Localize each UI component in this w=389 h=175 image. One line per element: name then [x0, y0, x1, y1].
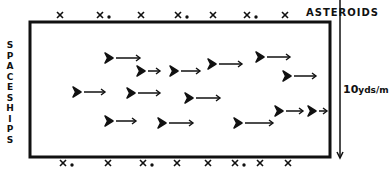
spaceship-icon [185, 93, 220, 103]
spaceships-group [73, 52, 327, 128]
spaceships-letter: S [5, 135, 15, 146]
spaceships-letter: C [5, 72, 15, 83]
asteroid-icon [205, 160, 211, 166]
spaceships-letter: I [5, 114, 15, 125]
asteroid-icon [285, 160, 291, 166]
spaceships-letter: A [5, 61, 15, 72]
spaceship-icon [256, 52, 290, 62]
asteroids-label: ASTEROIDS [306, 7, 379, 18]
spaceships-letter: H [5, 103, 15, 114]
scale-unit: yds/m [358, 85, 388, 95]
asteroid-icon [232, 160, 246, 167]
spaceship-icon [275, 106, 303, 116]
spaceship-icon [105, 53, 140, 63]
spaceships-letter: S [5, 40, 15, 51]
spaceships-label: S P A C E S H I P S [5, 40, 15, 145]
asteroid-icon [257, 160, 263, 166]
spaceship-icon [234, 118, 273, 128]
spaceships-letter: E [5, 82, 15, 93]
scale-label: 10yds/m [343, 83, 389, 96]
asteroid-icon [60, 160, 74, 167]
asteroid-icon [282, 12, 288, 18]
spaceship-icon [283, 71, 316, 81]
asteroid-icon [97, 12, 111, 19]
asteroid-icon [174, 160, 180, 166]
spaceships-letter: P [5, 124, 15, 135]
spaceships-letter: S [5, 93, 15, 104]
asteroids-bottom-row [60, 160, 291, 167]
spaceship-icon [308, 106, 327, 116]
scale-number: 10 [343, 83, 358, 96]
asteroid-icon [138, 12, 144, 18]
asteroid-icon [57, 12, 63, 18]
asteroid-icon [244, 12, 258, 19]
asteroid-icon [105, 160, 111, 166]
spaceship-icon [170, 66, 200, 76]
asteroid-icon [210, 12, 216, 18]
asteroid-icon [175, 12, 189, 19]
spaceship-icon [158, 118, 193, 128]
spaceship-icon [127, 88, 160, 98]
spaceships-letter: P [5, 51, 15, 62]
asteroid-icon [140, 160, 154, 167]
spaceship-icon [73, 87, 105, 97]
scale-double-arrow [337, 0, 343, 158]
spaceship-icon [105, 116, 136, 126]
spaceship-icon [208, 59, 242, 69]
spaceship-icon [137, 66, 160, 76]
asteroids-top-row [57, 12, 288, 19]
